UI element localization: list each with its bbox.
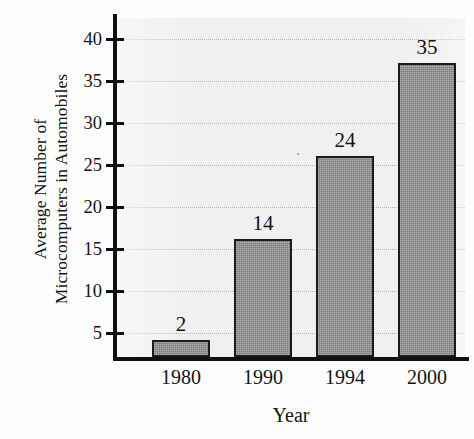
y-tick-label-25: 25 xyxy=(68,155,102,176)
y-tick-label-35: 35 xyxy=(68,71,102,92)
x-axis-title: Year xyxy=(117,404,465,427)
chart-figure: Average Number of Microcomputers in Auto… xyxy=(0,0,474,439)
y-axis-title: Average Number of Microcomputers in Auto… xyxy=(21,19,81,359)
y-tick-10 xyxy=(106,290,124,293)
x-tick-label-1994: 1994 xyxy=(308,366,382,389)
y-axis-title-line-2: Microcomputers in Automobiles xyxy=(51,74,72,304)
x-tick-label-1980: 1980 xyxy=(144,366,218,389)
y-tick-25 xyxy=(106,164,124,167)
bar-value-1994: 24 xyxy=(316,128,374,153)
y-tick-20 xyxy=(106,206,124,209)
y-axis-title-line-1: Average Number of xyxy=(30,119,51,259)
bar-1980 xyxy=(152,340,210,357)
y-tick-5 xyxy=(106,332,124,335)
bar-value-2000: 35 xyxy=(398,35,456,60)
x-tick-label-2000: 2000 xyxy=(390,366,464,389)
x-tick-label-1990: 1990 xyxy=(226,366,300,389)
y-tick-40 xyxy=(106,38,124,41)
y-tick-30 xyxy=(106,122,124,125)
y-tick-label-10: 10 xyxy=(68,281,102,302)
y-tick-label-5: 5 xyxy=(68,323,102,344)
bar-value-1980: 2 xyxy=(152,312,210,337)
bar-1990 xyxy=(234,239,292,357)
y-axis-line xyxy=(113,14,117,361)
bar-value-1990: 14 xyxy=(234,211,292,236)
y-tick-35 xyxy=(106,80,124,83)
bar-2000 xyxy=(398,63,456,357)
y-tick-label-20: 20 xyxy=(68,197,102,218)
y-tick-label-30: 30 xyxy=(68,113,102,134)
bar-1994 xyxy=(316,156,374,357)
y-tick-label-40: 40 xyxy=(68,29,102,50)
scan-speck xyxy=(297,153,299,155)
y-tick-label-15: 15 xyxy=(68,239,102,260)
y-tick-15 xyxy=(106,248,124,251)
x-axis-line xyxy=(113,357,469,361)
